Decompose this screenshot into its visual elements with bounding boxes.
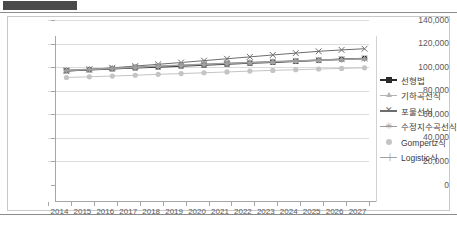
data-point-dot bbox=[339, 66, 344, 71]
legend-marker-triangle-icon bbox=[380, 90, 397, 101]
data-point-dot bbox=[270, 68, 275, 73]
legend-label: Gompertz식 bbox=[401, 136, 446, 148]
plot-right-edge bbox=[376, 36, 377, 202]
data-point-dot bbox=[316, 66, 321, 71]
x-axis-tick bbox=[163, 202, 164, 206]
x-axis-tick bbox=[71, 202, 72, 206]
data-point-dot bbox=[156, 72, 161, 77]
legend-label: Logistic식 bbox=[401, 151, 438, 163]
legend-item[interactable]: ✳수정지수곡선식 bbox=[380, 119, 457, 135]
data-point-dot bbox=[110, 73, 115, 78]
chart-screenshot: 020,00040,00060,00080,000100,000120,0001… bbox=[0, 0, 457, 225]
y-axis-label: 140,000 bbox=[405, 16, 449, 25]
legend-marker-plus-icon: ＋ bbox=[380, 152, 397, 163]
x-axis-tick bbox=[117, 202, 118, 206]
x-axis-tick bbox=[323, 202, 324, 206]
data-point-dot bbox=[201, 70, 206, 75]
x-axis-label: 2027 bbox=[343, 207, 373, 216]
x-axis-tick bbox=[231, 202, 232, 206]
legend-marker-dot-icon bbox=[380, 136, 397, 147]
legend-marker-cross-icon: ✕ bbox=[380, 105, 397, 116]
top-divider bbox=[0, 12, 457, 13]
y-axis-tick bbox=[51, 20, 55, 21]
plot-area bbox=[55, 36, 376, 201]
y-axis-label: 100,000 bbox=[405, 63, 449, 72]
legend-item[interactable]: 선형법 bbox=[380, 72, 457, 88]
y-axis-label: 120,000 bbox=[405, 39, 449, 48]
chart-container: 020,00040,00060,00080,000100,000120,0001… bbox=[7, 16, 450, 211]
axis-line-bottom bbox=[55, 201, 377, 202]
data-point-dot bbox=[64, 75, 69, 80]
x-axis-tick bbox=[186, 202, 187, 206]
legend-label: 포물선식 bbox=[401, 105, 433, 117]
y-gridline bbox=[48, 20, 369, 21]
data-point-dot bbox=[293, 67, 298, 72]
data-point-dot bbox=[87, 74, 92, 79]
data-point-dot bbox=[247, 69, 252, 74]
legend-label: 수정지수곡선식 bbox=[401, 120, 457, 132]
x-axis-tick bbox=[277, 202, 278, 206]
data-point-dot bbox=[179, 71, 184, 76]
legend-label: 선형법 bbox=[401, 74, 425, 86]
legend-label: 기하곡선식 bbox=[401, 89, 441, 101]
x-axis-tick bbox=[300, 202, 301, 206]
data-point-dot bbox=[362, 65, 367, 70]
legend-item[interactable]: 기하곡선식 bbox=[380, 88, 457, 104]
x-axis-tick bbox=[369, 202, 370, 206]
x-axis-tick bbox=[48, 202, 49, 206]
legend-marker-star-icon: ✳ bbox=[380, 121, 397, 132]
redacted-header-bar bbox=[3, 1, 77, 10]
legend-item[interactable]: ＋Logistic식 bbox=[380, 150, 457, 166]
data-point-dot bbox=[224, 69, 229, 74]
data-point-dot bbox=[133, 73, 138, 78]
x-axis-tick bbox=[346, 202, 347, 206]
legend-marker-square-icon bbox=[380, 74, 397, 85]
x-axis-tick bbox=[254, 202, 255, 206]
legend-item[interactable]: ✕포물선식 bbox=[380, 103, 457, 119]
x-axis-tick bbox=[94, 202, 95, 206]
series-layer bbox=[55, 36, 376, 201]
chart-legend: 선형법기하곡선식✕포물선식✳수정지수곡선식Gompertz식＋Logistic식 bbox=[380, 72, 457, 165]
x-axis-tick bbox=[140, 202, 141, 206]
y-axis-label: 0 bbox=[405, 181, 449, 190]
legend-item[interactable]: Gompertz식 bbox=[380, 134, 457, 150]
x-axis-tick bbox=[209, 202, 210, 206]
